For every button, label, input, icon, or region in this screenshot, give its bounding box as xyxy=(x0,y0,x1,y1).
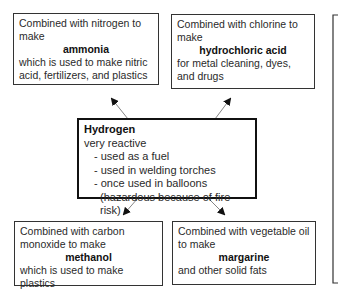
methanol-box: Combined with carbon monoxide to make me… xyxy=(14,221,163,286)
hydrogen-subtitle: very reactive xyxy=(84,137,250,151)
methanol-use: which is used to make plastics xyxy=(20,264,123,289)
right-bracket xyxy=(333,15,338,283)
hydrochloric-acid-intro: Combined with chlorine to make xyxy=(177,18,298,43)
hydrogen-use-fuel: - used as a fuel xyxy=(84,150,250,164)
margarine-use: and other solid fats xyxy=(178,264,267,276)
arrow-to-ammonia xyxy=(112,99,128,119)
ammonia-box: Combined with nitrogen to make ammonia w… xyxy=(13,13,159,85)
hydrogen-hazard-note: (hazardous because of fire risk) xyxy=(84,191,250,218)
methanol-intro: Combined with carbon monoxide to make xyxy=(20,225,124,250)
ammonia-use: which is used to make nitric acid, ferti… xyxy=(19,56,147,81)
methanol-product: methanol xyxy=(20,251,157,264)
margarine-product: margarine xyxy=(178,251,310,264)
hydrogen-box: Hydrogen very reactive - used as a fuel … xyxy=(77,118,257,199)
hydrogen-use-balloons: - once used in balloons xyxy=(84,177,250,191)
arrow-to-hydrochloric-acid xyxy=(215,99,230,119)
ammonia-intro: Combined with nitrogen to make xyxy=(19,17,141,42)
hydrochloric-acid-product: hydrochloric acid xyxy=(177,44,309,57)
margarine-intro: Combined with vegetable oil to make xyxy=(178,225,309,250)
ammonia-product: ammonia xyxy=(19,43,153,56)
hydrogen-use-welding: - used in welding torches xyxy=(84,164,250,178)
hydrogen-title: Hydrogen xyxy=(84,123,250,137)
margarine-box: Combined with vegetable oil to make marg… xyxy=(172,221,316,285)
hydrochloric-acid-use: for metal cleaning, dyes, and drugs xyxy=(177,57,291,82)
hydrochloric-acid-box: Combined with chlorine to make hydrochlo… xyxy=(171,14,315,89)
